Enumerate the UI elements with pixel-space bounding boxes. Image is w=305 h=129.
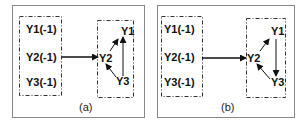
- panel-a-output-y3: Y3: [116, 75, 129, 87]
- panel-b-input-y1: Y1(-1): [164, 23, 195, 35]
- panel-b: Y1(-1) Y2(-1) Y3(-1) Y1 Y2 Y3 (b): [158, 6, 295, 118]
- panel-a-input-y3: Y3(-1): [26, 76, 57, 88]
- panel-b-output-y2: Y2: [247, 52, 260, 64]
- panel-b-output-y3: Y3: [271, 76, 284, 88]
- panel-b-arrow-y2-y1: [260, 39, 269, 51]
- panel-b-caption: (b): [221, 101, 234, 113]
- panel-b-input-y3: Y3(-1): [164, 76, 195, 88]
- panel-a-output-y1: Y1: [121, 25, 134, 37]
- panel-a-arrow-y3-y2: [106, 64, 116, 77]
- panel-a-arrow-y2-y1: [110, 39, 118, 51]
- panel-b-input-y2: Y2(-1): [164, 51, 195, 63]
- diagram-canvas: Y1(-1) Y2(-1) Y3(-1) Y1 Y2 Y3 (a) Y1(-1)…: [0, 0, 305, 129]
- panel-b-arrow-y3-y2: [257, 64, 270, 79]
- panel-a-caption: (a): [79, 101, 92, 113]
- panel-a-output-y2: Y2: [99, 52, 112, 64]
- panel-a-input-y1: Y1(-1): [26, 23, 57, 35]
- panel-b-output-y1: Y1: [271, 25, 284, 37]
- panel-a-input-y2: Y2(-1): [26, 51, 57, 63]
- panel-a: Y1(-1) Y2(-1) Y3(-1) Y1 Y2 Y3 (a): [13, 6, 145, 118]
